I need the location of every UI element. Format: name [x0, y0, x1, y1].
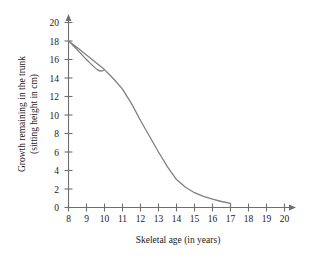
- x-tick-label-14: 14: [172, 214, 182, 224]
- y-axis-title-line2: (sitting height in cm): [29, 74, 40, 154]
- y-tick-label-18: 18: [50, 37, 60, 47]
- x-tick-label-15: 15: [190, 214, 200, 224]
- x-tick-label-12: 12: [136, 214, 146, 224]
- x-axis-title: Skeletal age (in years): [136, 235, 221, 246]
- y-tick-label-16: 16: [50, 55, 60, 65]
- growth-remaining-line-chart: 8 9 10 11 12 13 14 15 16 17 18 19 20 0 2…: [0, 0, 310, 263]
- y-tick-label-0: 0: [54, 203, 59, 213]
- x-tick-label-13: 13: [154, 214, 164, 224]
- x-tick-label-10: 10: [100, 214, 110, 224]
- y-tick-label-4: 4: [54, 166, 59, 176]
- y-tick-label-6: 6: [54, 148, 59, 158]
- chart-figure: 8 9 10 11 12 13 14 15 16 17 18 19 20 0 2…: [0, 0, 310, 263]
- growth-curve-path: [69, 41, 231, 208]
- y-tick-label-8: 8: [54, 129, 59, 139]
- x-tick-label-11: 11: [118, 214, 127, 224]
- x-tick-label-18: 18: [244, 214, 254, 224]
- y-tick-labels: 0 2 4 6 8 10 12 14 16 18 20: [50, 18, 60, 213]
- x-tick-label-20: 20: [280, 214, 290, 224]
- x-tick-label-8: 8: [66, 214, 71, 224]
- x-axis: [68, 205, 296, 211]
- x-tick-label-19: 19: [262, 214, 272, 224]
- y-tick-label-12: 12: [50, 92, 60, 102]
- x-tick-labels: 8 9 10 11 12 13 14 15 16 17 18 19 20: [66, 214, 289, 224]
- y-tick-label-20: 20: [50, 18, 60, 28]
- y-tick-label-2: 2: [54, 185, 59, 195]
- x-tick-label-16: 16: [208, 214, 218, 224]
- y-axis-arrow-icon: [66, 14, 72, 21]
- x-tick-label-17: 17: [226, 214, 236, 224]
- y-axis-title-line1: Growth remaining in the trunk: [17, 56, 27, 172]
- x-tick-label-9: 9: [84, 214, 89, 224]
- y-tick-label-14: 14: [50, 74, 60, 84]
- y-tick-label-10: 10: [50, 111, 60, 121]
- x-axis-arrow-icon: [289, 205, 296, 211]
